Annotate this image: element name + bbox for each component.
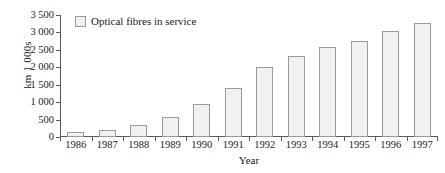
y-axis-tick-label: 1 500 bbox=[26, 79, 54, 90]
legend-swatch-icon bbox=[75, 16, 86, 27]
x-axis-tick-label: 1992 bbox=[254, 139, 275, 151]
x-axis-tick-label: 1995 bbox=[349, 139, 370, 151]
y-axis-tick-label: 500 bbox=[26, 114, 54, 125]
bar-1987 bbox=[99, 130, 116, 137]
y-axis-tick-label: 0 bbox=[26, 132, 54, 143]
x-axis-tick-label: 1987 bbox=[97, 139, 118, 151]
bar-1996 bbox=[382, 31, 399, 137]
x-axis-tick-label: 1989 bbox=[160, 139, 181, 151]
y-axis-tick-label: 3 000 bbox=[26, 27, 54, 38]
y-axis-line bbox=[60, 15, 61, 138]
bar-1988 bbox=[130, 125, 147, 137]
y-axis-tick-label: 1 000 bbox=[26, 97, 54, 108]
bar-1993 bbox=[288, 56, 305, 137]
bar-chart: km 1 000s 05001 0001 5002 0002 5003 0003… bbox=[0, 0, 445, 173]
bar-1989 bbox=[162, 117, 179, 137]
legend: Optical fibres in service bbox=[75, 16, 196, 27]
y-axis-tick-mark bbox=[56, 102, 60, 103]
y-axis-tick-mark bbox=[56, 120, 60, 121]
y-axis-tick-mark bbox=[56, 15, 60, 16]
plot-area bbox=[60, 15, 438, 137]
y-axis-tick-mark bbox=[56, 32, 60, 33]
x-axis-tick-label: 1991 bbox=[223, 139, 244, 151]
x-axis-tick-label: 1993 bbox=[286, 139, 307, 151]
y-axis-tick-mark bbox=[56, 50, 60, 51]
y-axis-tick-label: 2 000 bbox=[26, 62, 54, 73]
bar-1990 bbox=[193, 104, 210, 137]
bar-1997 bbox=[414, 23, 431, 137]
bar-1992 bbox=[256, 67, 273, 137]
bar-1995 bbox=[351, 41, 368, 137]
y-axis-tick-labels: 05001 0001 5002 0002 5003 0003 500 bbox=[26, 0, 54, 173]
x-axis-title: Year bbox=[60, 154, 438, 167]
x-axis-tick-label: 1990 bbox=[191, 139, 212, 151]
bar-1991 bbox=[225, 88, 242, 137]
x-axis-tick-label: 1996 bbox=[380, 139, 401, 151]
y-axis-tick-mark bbox=[56, 85, 60, 86]
y-axis-tick-label: 2 500 bbox=[26, 45, 54, 56]
x-axis-tick-label: 1986 bbox=[65, 139, 86, 151]
y-axis-tick-mark bbox=[56, 67, 60, 68]
x-axis-tick-labels: 1986198719881989199019911992199319941995… bbox=[60, 139, 438, 153]
y-axis-tick-label: 3 500 bbox=[26, 10, 54, 21]
bar-1994 bbox=[319, 47, 336, 137]
x-axis-tick-label: 1988 bbox=[128, 139, 149, 151]
bar-1986 bbox=[67, 132, 84, 137]
legend-label: Optical fibres in service bbox=[91, 16, 196, 27]
x-axis-tick-label: 1997 bbox=[412, 139, 433, 151]
x-axis-tick-label: 1994 bbox=[317, 139, 338, 151]
